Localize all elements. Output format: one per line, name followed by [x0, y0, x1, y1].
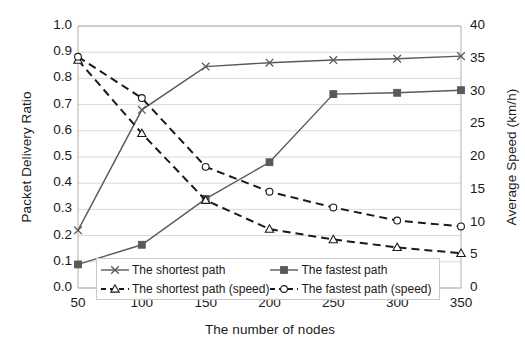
data-point-marker-square: [266, 159, 273, 166]
data-point-marker-square: [281, 266, 288, 273]
data-point-marker-circle: [202, 163, 209, 170]
legend-label-fastest-path: The fastest path: [301, 264, 387, 276]
data-point-marker-circle: [138, 95, 145, 102]
legend-swatch-fastest-path: [269, 264, 299, 276]
data-point-marker-circle: [75, 53, 82, 60]
legend-label-fastest-path-speed: The fastest path (speed): [301, 283, 431, 295]
data-point-marker-circle: [394, 217, 401, 224]
data-point-marker-square: [138, 241, 145, 248]
data-point-marker-circle: [281, 285, 288, 292]
data-point-marker-circle: [266, 188, 273, 195]
series-the-shortest-path-speed: [74, 56, 465, 257]
legend-swatch-shortest-path: [100, 264, 130, 276]
legend-item-shortest-path: The shortest path: [100, 264, 269, 276]
chart-legend: The shortest path The fastest path The s…: [96, 258, 440, 300]
legend-label-shortest-path: The shortest path: [132, 264, 225, 276]
data-point-marker-circle: [458, 223, 465, 230]
data-point-marker-x: [138, 106, 146, 114]
series-line: [78, 90, 461, 264]
data-point-marker-circle: [330, 204, 337, 211]
legend-item-fastest-path: The fastest path: [269, 264, 436, 276]
legend-item-fastest-path-speed: The fastest path (speed): [269, 283, 436, 295]
series-line: [78, 57, 461, 227]
data-point-marker-square: [75, 261, 82, 268]
legend-label-shortest-path-speed: The shortest path (speed): [132, 283, 269, 295]
legend-swatch-shortest-path-speed: [100, 283, 130, 295]
data-point-marker-square: [330, 91, 337, 98]
series-the-shortest-path: [74, 52, 465, 234]
series-the-fastest-path-speed: [75, 53, 465, 229]
data-point-marker-square: [458, 87, 465, 94]
chart-figure: Packet Delivery Ratio Average Speed (km/…: [0, 0, 525, 350]
data-point-marker-square: [394, 89, 401, 96]
series-line: [78, 56, 461, 230]
series-the-fastest-path: [75, 87, 465, 268]
legend-item-shortest-path-speed: The shortest path (speed): [100, 283, 269, 295]
legend-swatch-fastest-path-speed: [269, 283, 299, 295]
